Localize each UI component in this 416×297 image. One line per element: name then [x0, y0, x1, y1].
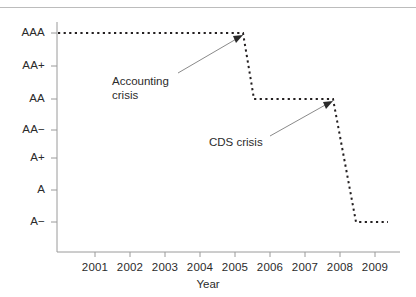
rating-step-line	[58, 33, 388, 222]
x-axis-title: Year	[178, 278, 238, 290]
x-tick-marks	[95, 252, 375, 257]
ytick-label-a: A	[0, 183, 45, 195]
annotation-accounting-crisis: Accounting crisis	[112, 74, 169, 102]
rating-step-plot	[0, 0, 416, 297]
cds-crisis-arrow	[270, 101, 333, 136]
ytick-label-aa-plus: AA+	[0, 59, 45, 71]
y-tick-marks	[51, 33, 57, 222]
chart-figure: AAA AA+ AA AA− A+ A A− 2001 2002 2003 20…	[0, 0, 416, 297]
ytick-label-a-minus: A−	[0, 215, 45, 227]
ytick-label-a-plus: A+	[0, 151, 45, 163]
ytick-label-aa: AA	[0, 92, 45, 104]
xtick-label-2009: 2009	[350, 261, 400, 273]
ytick-label-aa-minus: AA−	[0, 123, 45, 135]
accounting-crisis-arrow	[178, 35, 243, 73]
annotation-cds-crisis: CDS crisis	[209, 135, 263, 149]
ytick-label-aaa: AAA	[0, 26, 45, 38]
